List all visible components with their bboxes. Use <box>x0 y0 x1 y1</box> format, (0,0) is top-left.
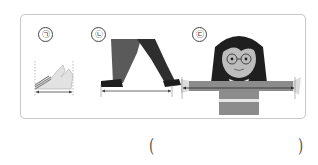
answer-close-paren: ) <box>298 134 303 156</box>
item-label-a: ㉠ <box>38 27 53 42</box>
answer-field[interactable] <box>160 136 296 158</box>
hand-span-figure <box>29 53 79 101</box>
options-card: ㉠ ㉡ ㉢ <box>20 14 306 119</box>
arm-span-figure <box>179 29 301 117</box>
step-length-figure <box>93 35 183 97</box>
answer-open-paren: ( <box>149 134 154 156</box>
